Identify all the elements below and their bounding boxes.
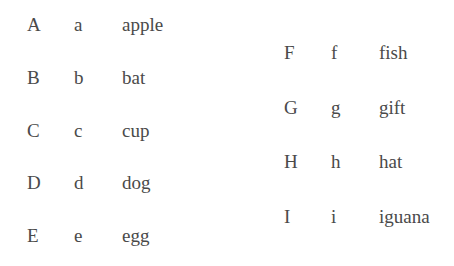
example-word: bat xyxy=(122,66,145,90)
example-word: apple xyxy=(122,13,163,37)
uppercase-letter: H xyxy=(284,150,298,174)
lowercase-letter: e xyxy=(74,224,82,248)
example-word: egg xyxy=(122,224,149,248)
uppercase-letter: I xyxy=(284,205,290,229)
lowercase-letter: c xyxy=(74,119,82,143)
example-word: hat xyxy=(379,150,402,174)
example-word: gift xyxy=(379,96,405,120)
lowercase-letter: d xyxy=(74,171,84,195)
lowercase-letter: f xyxy=(331,41,337,65)
uppercase-letter: D xyxy=(27,171,41,195)
uppercase-letter: C xyxy=(27,119,40,143)
uppercase-letter: A xyxy=(27,13,41,37)
example-word: fish xyxy=(379,41,408,65)
uppercase-letter: G xyxy=(284,96,298,120)
uppercase-letter: F xyxy=(284,41,295,65)
lowercase-letter: i xyxy=(331,205,336,229)
lowercase-letter: b xyxy=(74,66,84,90)
lowercase-letter: a xyxy=(74,13,82,37)
example-word: iguana xyxy=(379,205,430,229)
uppercase-letter: B xyxy=(27,66,40,90)
example-word: dog xyxy=(122,171,151,195)
lowercase-letter: g xyxy=(331,96,341,120)
lowercase-letter: h xyxy=(331,150,341,174)
example-word: cup xyxy=(122,119,149,143)
uppercase-letter: E xyxy=(27,224,39,248)
